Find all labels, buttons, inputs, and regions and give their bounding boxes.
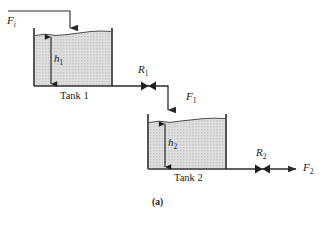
- resistance2-label: R2: [256, 147, 266, 158]
- inlet-flow-arrow: [8, 11, 70, 28]
- resistance1-label: R1: [138, 64, 148, 75]
- inlet-flow-pipe: [8, 11, 70, 28]
- two-tank-system-diagram: Fi h1 Tank 1 R1 F1 h2 Tank 2 R2 F2 (a): [0, 0, 324, 229]
- tank2-level-label: h2: [168, 137, 177, 148]
- inlet-flow-label: Fi: [7, 15, 16, 26]
- resistance2-valve-icon: [255, 165, 270, 174]
- tank2-group: [148, 114, 226, 169]
- tank1-level-label: h1: [54, 53, 63, 64]
- flow1-label: F1: [186, 91, 196, 102]
- flow1-pipe: [112, 82, 168, 111]
- tank2-name-label: Tank 2: [174, 173, 203, 184]
- diagram-canvas: [0, 0, 324, 229]
- figure-caption: (a): [152, 198, 163, 208]
- tank1-name-label: Tank 1: [60, 91, 89, 102]
- flow2-pipe: [226, 165, 296, 174]
- flow2-label: F2: [303, 162, 313, 173]
- tank1-group: [34, 28, 112, 86]
- tank2-fluid: [149, 118, 225, 168]
- tank1-fluid: [35, 31, 111, 85]
- flow1-arrow: [112, 86, 168, 110]
- resistance1-valve-icon: [141, 82, 156, 91]
